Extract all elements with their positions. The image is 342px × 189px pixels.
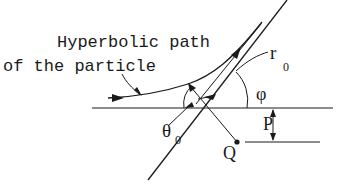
phi-label: φ — [256, 84, 266, 104]
p-down-arrow-icon — [270, 133, 276, 141]
incoming-arrow-icon — [112, 94, 124, 102]
r0-label: r — [270, 42, 277, 63]
caption-line-2: of the particle — [3, 57, 156, 76]
phi-arc — [236, 72, 248, 108]
caption-line-1: Hyperbolic path — [57, 33, 210, 52]
p-label: P — [263, 114, 273, 134]
r0-subscript: 0 — [283, 60, 289, 74]
theta0-subscript: 0 — [175, 133, 181, 147]
outgoing-arrow-icon — [231, 47, 241, 59]
r0-leader-line — [236, 52, 268, 71]
theta0-label: θ — [162, 120, 171, 141]
hyperbolic-scattering-diagram: Hyperbolic path of the particle r 0 φ P … — [0, 0, 342, 189]
q-vector-arrow-icon — [188, 83, 196, 92]
q-label: Q — [223, 143, 236, 163]
